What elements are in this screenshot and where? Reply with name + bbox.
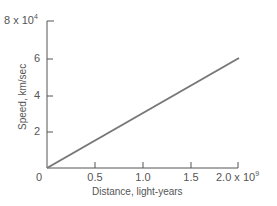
y-axis-title: Speed, km/sec: [17, 64, 28, 130]
x-tick-label-1.5: 1.5: [178, 172, 204, 183]
speed-distance-chart: 8 x 104 6 4 2 0 0.5 1.0 1.5 2.0 x 109 Di…: [0, 0, 277, 206]
y-tick-label-8: 8 x 104: [4, 15, 38, 26]
x-tick-label-1.0: 1.0: [130, 172, 156, 183]
data-line: [47, 58, 239, 168]
x-axis-title: Distance, light-years: [92, 186, 183, 197]
y-tick-label-6: 6: [0, 53, 40, 64]
x-tick-label-0.5: 0.5: [82, 172, 108, 183]
x-tick-label-2.0: 2.0 x 109: [216, 172, 259, 183]
origin-label: 0: [36, 172, 42, 183]
